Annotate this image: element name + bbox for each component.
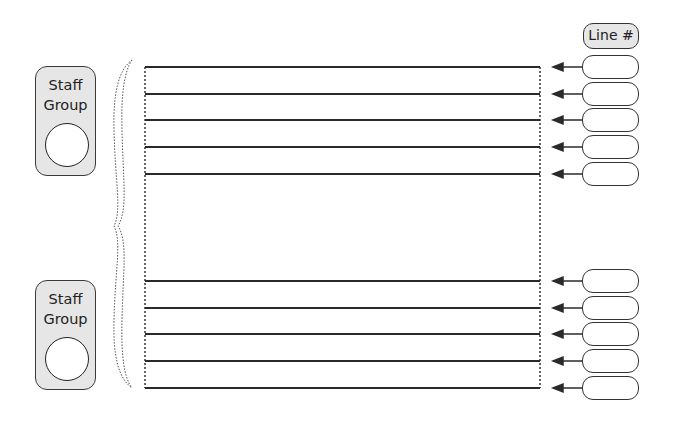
- staff-label-line2: Group: [36, 95, 95, 115]
- staff-lines-group-1: [145, 67, 540, 174]
- arrows-group-2: [553, 277, 582, 392]
- diagram-canvas: Staff Group Staff Group Line #: [0, 0, 677, 422]
- curly-brace-icon: [114, 60, 132, 388]
- line-number-slot-3: [582, 108, 639, 132]
- line-number-slot-10: [582, 376, 639, 400]
- line-number-slot-8: [582, 322, 639, 346]
- empty-circle-icon: [45, 337, 89, 381]
- staff-label-line2: Group: [36, 309, 95, 329]
- arrows-group-1: [553, 63, 582, 178]
- staff-label-line1: Staff: [36, 75, 95, 95]
- staff-group-label: Staff Group: [36, 75, 95, 115]
- staff-lines-graphic: [0, 0, 677, 422]
- staff-label-line1: Staff: [36, 289, 95, 309]
- staff-group-label: Staff Group: [36, 289, 95, 329]
- line-number-slot-1: [582, 55, 639, 79]
- line-number-slot-4: [582, 135, 639, 159]
- staff-group-box-2: Staff Group: [35, 280, 96, 390]
- staff-group-box-1: Staff Group: [35, 66, 96, 176]
- line-number-slot-2: [582, 82, 639, 106]
- line-number-header: Line #: [583, 23, 639, 49]
- empty-circle-icon: [45, 123, 89, 167]
- line-number-slot-7: [582, 296, 639, 320]
- line-number-slot-6: [582, 269, 639, 293]
- line-number-slot-9: [582, 349, 639, 373]
- staff-lines-group-2: [145, 281, 540, 388]
- line-number-slot-5: [582, 162, 639, 186]
